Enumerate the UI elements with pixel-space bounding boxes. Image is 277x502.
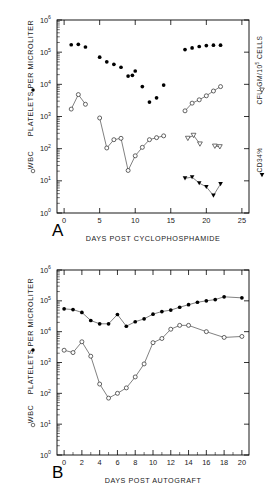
data-point <box>162 83 166 87</box>
data-series-group <box>69 42 223 197</box>
y-tick-label: 105 <box>40 295 51 305</box>
left-axis-wbc-title: WBC <box>26 151 35 169</box>
x-tick-label: 12 <box>167 458 175 467</box>
data-point <box>222 295 226 299</box>
data-point <box>151 341 155 345</box>
data-point <box>183 109 187 113</box>
y-tick-label: 106 <box>40 264 51 274</box>
data-point <box>119 65 123 69</box>
y-tick-label: 102 <box>40 143 51 153</box>
series-line <box>64 325 242 398</box>
x-axis-ticks: 02468101214161820 <box>62 270 246 467</box>
data-point <box>140 85 144 89</box>
right-axis-title: CFU-GM/105 CELLS <box>255 35 263 104</box>
x-axis-ticks: 0510152025 <box>62 20 246 225</box>
data-point <box>115 391 119 395</box>
data-point <box>80 340 84 344</box>
data-point <box>112 138 116 142</box>
x-tick-label: 8 <box>133 458 137 467</box>
x-tick-label: 2 <box>80 458 84 467</box>
x-axis-title: DAYS POST CYCLOPHOSPHAMIDE <box>86 234 221 243</box>
data-point <box>178 323 182 327</box>
data-point <box>183 48 187 52</box>
series-line <box>100 118 164 171</box>
right-axis-cd34-title: CD34% <box>256 147 263 172</box>
data-point <box>112 62 116 66</box>
data-point <box>124 324 128 328</box>
panel-b: 10010110210310410510602468101214161820DA… <box>0 251 277 502</box>
data-point <box>169 327 173 331</box>
data-point <box>147 138 151 142</box>
data-point <box>178 305 182 309</box>
data-point <box>84 45 88 49</box>
legend-filled-triangle-icon <box>260 173 265 177</box>
data-point <box>142 362 146 366</box>
data-point <box>119 136 123 140</box>
data-point <box>105 60 109 64</box>
data-point <box>69 107 73 111</box>
data-point <box>142 317 146 321</box>
y-tick-label: 104 <box>40 79 51 89</box>
data-point <box>98 116 102 120</box>
data-point <box>133 375 137 379</box>
data-point <box>219 85 223 89</box>
data-point <box>83 102 87 106</box>
data-point <box>80 311 84 315</box>
data-point <box>198 142 203 146</box>
figure-container: 1001011021031041051060510152025DAYS POST… <box>0 0 277 502</box>
data-point <box>219 43 223 47</box>
x-tick-label: 20 <box>202 216 210 225</box>
data-point <box>133 69 137 73</box>
data-point <box>69 43 73 47</box>
data-point <box>197 181 202 185</box>
data-point <box>222 335 226 339</box>
data-point <box>187 303 191 307</box>
x-tick-label: 16 <box>202 458 210 467</box>
data-point <box>133 154 137 158</box>
data-point <box>204 299 208 303</box>
x-tick-label: 4 <box>98 458 102 467</box>
x-tick-label: 20 <box>238 458 246 467</box>
data-point <box>76 93 80 97</box>
data-point <box>107 322 111 326</box>
data-point <box>148 100 152 104</box>
data-point <box>89 319 93 323</box>
panel-tag: B <box>52 463 63 482</box>
data-point <box>211 89 215 93</box>
data-point <box>212 43 216 47</box>
data-point <box>204 44 208 48</box>
data-point <box>140 145 144 149</box>
left-axis-title: PLATELETS PER MICROLITER <box>26 20 35 137</box>
y-tick-label: 103 <box>40 357 51 367</box>
y-tick-label: 104 <box>40 326 51 336</box>
y-tick-label: 100 <box>40 449 51 459</box>
data-point <box>160 337 164 341</box>
data-point <box>191 133 196 137</box>
data-point <box>240 296 244 300</box>
y-tick-label: 105 <box>40 47 51 57</box>
data-point <box>190 46 194 50</box>
data-point <box>187 323 191 327</box>
data-point <box>160 310 164 314</box>
panel-a-chart: 1001011021031041051060510152025DAYS POST… <box>0 0 277 251</box>
panel-b-chart: 10010110210310410510602468101214161820DA… <box>0 251 277 502</box>
data-point <box>131 74 135 78</box>
y-tick-label: 100 <box>40 207 51 217</box>
data-point <box>116 313 120 317</box>
data-point <box>105 146 109 150</box>
data-point <box>155 136 159 140</box>
data-point <box>76 42 80 46</box>
panel-a: 1001011021031041051060510152025DAYS POST… <box>0 0 277 251</box>
y-tick-label: 101 <box>40 419 51 429</box>
x-tick-label: 15 <box>167 216 175 225</box>
data-point <box>204 94 208 98</box>
data-point <box>197 45 201 49</box>
data-point <box>197 98 201 102</box>
data-point <box>211 194 216 198</box>
x-tick-label: 25 <box>238 216 246 225</box>
data-point <box>183 176 188 180</box>
panel-tag: A <box>52 221 64 240</box>
y-tick-label: 106 <box>40 14 51 24</box>
data-point <box>162 134 166 138</box>
data-point <box>240 334 244 338</box>
